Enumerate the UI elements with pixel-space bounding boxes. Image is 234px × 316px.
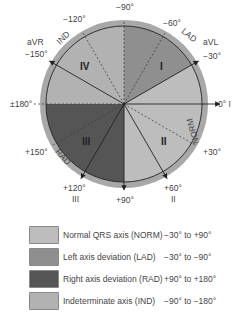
hexaxial-diagram: −90° −60° −30° 0° I +30° +60° +90° +120°… xyxy=(0,0,234,210)
angle-label-plus30: +30° xyxy=(203,147,221,157)
lead-label-avf: aVF xyxy=(116,209,132,210)
angle-label-plus150: +150° xyxy=(25,147,48,157)
lead-label-avr: aVR xyxy=(27,37,44,47)
legend-label-lad: Left axis deviation (LAD) xyxy=(63,252,156,262)
angle-label-minus90: −90° xyxy=(116,2,134,12)
angle-label-0: 0° I xyxy=(218,99,231,109)
lead-label-ii: II xyxy=(171,194,176,204)
angle-label-minus120: −120° xyxy=(63,14,86,24)
legend-label-rad: Right axis deviation (RAD) xyxy=(63,274,163,284)
angle-label-180: ±180° xyxy=(10,99,32,109)
legend-range-rad: +90° to +180° xyxy=(164,274,216,284)
quadrant-label-ii: II xyxy=(161,136,167,147)
legend-swatch-norm xyxy=(29,226,59,244)
angle-label-plus120: +120° xyxy=(63,183,86,193)
legend-row-norm: Normal QRS axis (NORM) −30° to +90° xyxy=(29,226,234,246)
legend-row-rad: Right axis deviation (RAD) +90° to +180° xyxy=(29,270,234,290)
legend-range-lad: −30° to −90° xyxy=(164,252,211,262)
quadrant-label-i: I xyxy=(160,61,163,72)
angle-label-minus30: −30° xyxy=(203,51,221,61)
quadrant-label-iv: IV xyxy=(80,61,90,72)
legend-range-norm: −30° to +90° xyxy=(164,230,211,240)
legend-row-ind: Indeterminate axis (IND) −90° to −180° xyxy=(29,292,234,312)
zone-label-lad: LAD xyxy=(180,26,199,44)
legend-label-ind: Indeterminate axis (IND) xyxy=(63,296,155,306)
legend-swatch-rad xyxy=(29,270,59,288)
angle-label-plus60: +60° xyxy=(164,183,182,193)
legend-swatch-ind xyxy=(29,292,59,310)
angle-label-minus150: −150° xyxy=(25,49,48,59)
legend-label-norm: Normal QRS axis (NORM) xyxy=(63,230,163,240)
angle-label-minus60: −60° xyxy=(163,18,181,28)
quadrant-label-iii: III xyxy=(82,136,91,147)
legend-range-ind: −90° to −180° xyxy=(164,296,216,306)
lead-label-iii: III xyxy=(72,194,79,204)
angle-label-plus90: +90° xyxy=(116,195,134,205)
legend-row-lad: Left axis deviation (LAD) −30° to −90° xyxy=(29,248,234,268)
legend-swatch-lad xyxy=(29,248,59,266)
lead-label-avl: aVL xyxy=(203,37,218,47)
